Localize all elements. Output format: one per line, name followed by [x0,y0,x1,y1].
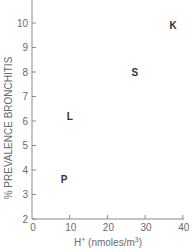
y-ticks: 2345678910 [17,18,36,225]
scatter-chart: 2345678910 010203040 PLSK % PREVALENCE B… [0,0,192,252]
y-tick-label: 4 [22,165,28,176]
data-points: PLSK [61,20,178,185]
x-tick-label: 20 [103,222,115,233]
data-point-s: S [132,67,139,78]
data-point-k: K [169,20,177,31]
y-tick-label: 5 [22,140,28,151]
x-ticks: 010203040 [30,215,190,233]
x-axis-title: H+ (nmoles/m3) [74,236,142,248]
y-tick-label: 3 [22,189,28,200]
y-tick-label: 6 [22,116,28,127]
x-tick-label: 40 [178,222,190,233]
y-tick-label: 9 [22,42,28,53]
y-tick-label: 8 [22,67,28,78]
x-tick-label: 30 [141,222,153,233]
data-point-l: L [67,111,73,122]
data-point-p: P [61,174,68,185]
y-axis-title: % PREVALENCE BRONCHITIS [3,56,14,199]
y-tick-label: 10 [17,18,29,29]
y-tick-label: 7 [22,91,28,102]
y-tick-label: 2 [22,214,28,225]
x-tick-label: 0 [30,222,36,233]
axes [32,0,184,219]
x-tick-label: 10 [65,222,77,233]
